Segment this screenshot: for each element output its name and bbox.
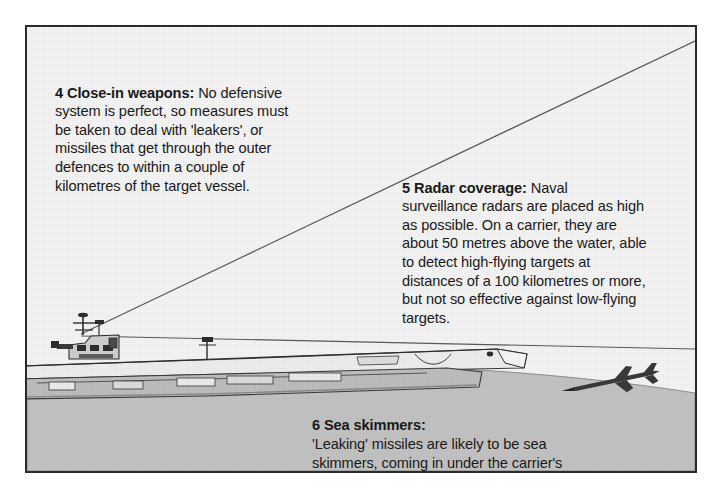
callout-5-body: Naval surveillance radars are placed as … xyxy=(402,180,647,326)
funnel xyxy=(109,338,117,348)
diagram-frame: 4 Close-in weapons: No defensive system … xyxy=(25,25,697,473)
callout-6-lead: 6 Sea skimmers: xyxy=(312,416,577,435)
callout-5-lead: 5 Radar coverage: xyxy=(402,180,527,196)
sponson-c xyxy=(177,378,215,386)
island-window-b xyxy=(90,345,99,351)
callout-6-body: 'Leaking' missiles are likely to be sea … xyxy=(312,435,577,473)
deck-lift xyxy=(357,356,399,365)
figure-root: 4 Close-in weapons: No defensive system … xyxy=(0,0,717,494)
callout-sea-skimmers: 6 Sea skimmers:'Leaking' missiles are li… xyxy=(312,397,577,473)
radar-antenna xyxy=(78,313,88,317)
callout-radar-coverage: 5 Radar coverage: Naval surveillance rad… xyxy=(402,160,647,327)
sponson-d xyxy=(227,376,273,384)
deck-aircraft xyxy=(487,352,493,357)
secondary-antenna xyxy=(95,320,104,324)
callout-close-in-weapons: 4 Close-in weapons: No defensive system … xyxy=(55,65,293,195)
callout-4-lead: 4 Close-in weapons: xyxy=(55,85,194,101)
sponson-b xyxy=(113,381,143,389)
amidships-antenna xyxy=(202,337,213,342)
island-window-a xyxy=(77,345,86,351)
island-band xyxy=(79,354,113,358)
bridge-wing xyxy=(57,344,73,349)
sponson-a xyxy=(49,382,75,390)
sponson-e xyxy=(289,373,341,381)
platform-sensor xyxy=(51,341,59,348)
